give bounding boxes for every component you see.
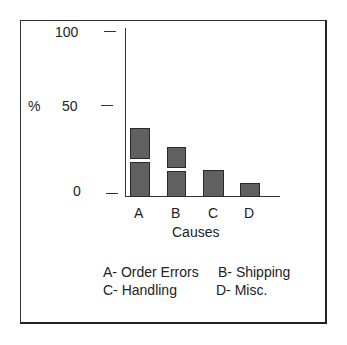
- y-axis: [125, 28, 126, 197]
- legend-a: A- Order Errors: [103, 264, 199, 280]
- xtick-label-b: B: [171, 205, 180, 221]
- ytick-label-100: 100: [55, 24, 78, 40]
- bar-b-upper: [167, 147, 186, 168]
- bar-b-lower: [167, 171, 186, 197]
- bar-d: [240, 183, 260, 197]
- xtick-label-d: D: [244, 205, 254, 221]
- bar-a-lower: [130, 162, 150, 197]
- ytick-50: [101, 105, 113, 106]
- legend-d: D- Misc.: [216, 282, 267, 298]
- ytick-label-0: 0: [73, 183, 81, 199]
- y-axis-label: %: [28, 98, 40, 114]
- x-axis-label: Causes: [172, 224, 219, 240]
- ytick-label-50: 50: [62, 98, 78, 114]
- xtick-label-c: C: [208, 205, 218, 221]
- bar-a-upper: [130, 128, 150, 159]
- ytick-100: [104, 31, 116, 32]
- legend-b: B- Shipping: [218, 264, 290, 280]
- bar-c: [203, 170, 224, 197]
- legend-c: C- Handling: [103, 282, 177, 298]
- ytick-0: [106, 193, 118, 194]
- xtick-label-a: A: [134, 205, 143, 221]
